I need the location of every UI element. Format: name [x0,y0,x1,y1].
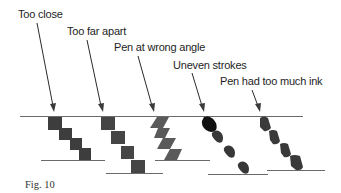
label-too-close: Too close [18,8,63,20]
arrowhead-icon [149,103,155,112]
arrow-icon [192,73,202,106]
arrow-icon [138,56,152,106]
example-too-close [41,117,105,161]
example-too-much-ink [260,117,325,171]
arrow-icon [37,23,53,106]
label-too-far-apart: Too far apart [67,25,126,37]
example-uneven-strokes [202,116,268,174]
arrowhead-icon [199,103,205,112]
arrow-icon [87,40,101,106]
figure-caption: Fig. 10 [25,179,55,190]
arrowhead-icon [98,103,104,112]
arrowhead-icon [50,103,56,112]
arrow-icon [252,90,258,106]
pen-nib-width-errors-diagram: Too close Too far apart Pen at wrong ang… [0,0,341,193]
arrowhead-icon [255,103,261,112]
label-pen-wrong-angle: Pen at wrong angle [114,41,205,53]
label-uneven-strokes: Uneven strokes [173,59,247,71]
example-pen-wrong-angle [150,117,210,161]
label-too-much-ink: Pen had too much ink [220,75,323,87]
